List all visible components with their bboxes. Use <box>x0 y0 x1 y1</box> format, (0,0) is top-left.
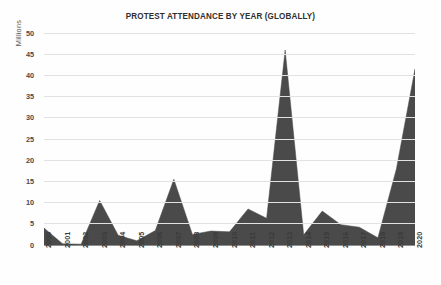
x-axis-tick-label: 2012 <box>262 247 272 281</box>
x-axis-tick-label: 2015 <box>317 247 327 281</box>
x-axis-tick-label: 2007 <box>169 247 179 281</box>
x-axis-tick-label: 2002 <box>76 247 86 281</box>
y-axis-tick-label: 15 <box>10 177 34 186</box>
x-axis-tick-label: 2016 <box>336 247 346 281</box>
x-axis: 2000200120022003200420052006200720082009… <box>44 247 415 283</box>
x-axis-tick-label: 2004 <box>113 247 123 281</box>
gridline <box>44 54 415 55</box>
gridline <box>44 139 415 140</box>
y-axis-tick-label: 20 <box>10 156 34 165</box>
x-axis-tick-text: 2015 <box>322 232 331 248</box>
x-axis-tick-text: 2020 <box>415 232 424 248</box>
gridline <box>44 160 415 161</box>
x-axis-tick-text: 2010 <box>230 232 239 248</box>
x-axis-tick-text: 2017 <box>359 232 368 248</box>
x-axis-tick-label: 2011 <box>243 247 253 281</box>
x-axis-tick-label: 2020 <box>410 247 420 281</box>
x-axis-tick-label: 2010 <box>225 247 235 281</box>
y-axis-tick-label: 50 <box>10 29 34 38</box>
x-axis-tick-text: 2018 <box>378 232 387 248</box>
x-axis-tick-label: 2009 <box>206 247 216 281</box>
x-axis-tick-label: 2019 <box>391 247 401 281</box>
gridline <box>44 181 415 182</box>
gridline <box>44 75 415 76</box>
x-axis-tick-label: 2005 <box>132 247 142 281</box>
x-axis-tick-text: 2019 <box>396 232 405 248</box>
x-axis-tick-text: 2014 <box>304 232 313 248</box>
gridline <box>44 223 415 224</box>
x-axis-tick-text: 2001 <box>63 232 72 248</box>
plot-area: 05101520253035404550 <box>44 33 415 245</box>
y-axis-tick-label: 30 <box>10 113 34 122</box>
x-axis-tick-text: 2016 <box>341 232 350 248</box>
y-axis-tick-label: 10 <box>10 198 34 207</box>
x-axis-tick-label: 2001 <box>58 247 68 281</box>
x-axis-tick-text: 2000 <box>44 232 53 248</box>
x-axis-tick-text: 2005 <box>137 232 146 248</box>
x-axis-tick-text: 2004 <box>118 232 127 248</box>
x-axis-tick-text: 2011 <box>248 232 257 248</box>
x-axis-tick-label: 2000 <box>39 247 49 281</box>
chart-title: PROTEST ATTENDANCE BY YEAR (GLOBALLY) <box>26 11 414 21</box>
y-axis-tick-label: 45 <box>10 50 34 59</box>
x-axis-tick-text: 2013 <box>285 232 294 248</box>
x-axis-tick-text: 2003 <box>100 232 109 248</box>
gridline <box>44 202 415 203</box>
x-axis-tick-label: 2018 <box>373 247 383 281</box>
chart-container: PROTEST ATTENDANCE BY YEAR (GLOBALLY) Mi… <box>0 0 441 285</box>
x-axis-tick-label: 2017 <box>354 247 364 281</box>
y-axis-tick-label: 35 <box>10 92 34 101</box>
x-axis-tick-text: 2008 <box>192 232 201 248</box>
gridline <box>44 33 415 34</box>
x-axis-tick-text: 2007 <box>174 232 183 248</box>
x-axis-tick-label: 2003 <box>95 247 105 281</box>
gridline <box>44 96 415 97</box>
x-axis-tick-label: 2013 <box>280 247 290 281</box>
y-axis-tick-label: 25 <box>10 135 34 144</box>
y-axis-tick-label: 40 <box>10 71 34 80</box>
x-axis-tick-text: 2006 <box>155 232 164 248</box>
x-axis-tick-text: 2012 <box>267 232 276 248</box>
y-axis-tick-label: 5 <box>10 219 34 228</box>
x-axis-tick-text: 2009 <box>211 232 220 248</box>
x-axis-tick-label: 2006 <box>150 247 160 281</box>
x-axis-tick-label: 2008 <box>187 247 197 281</box>
gridline <box>44 117 415 118</box>
x-axis-tick-text: 2002 <box>81 232 90 248</box>
x-axis-tick-label: 2014 <box>299 247 309 281</box>
y-axis-tick-label: 0 <box>10 241 34 250</box>
